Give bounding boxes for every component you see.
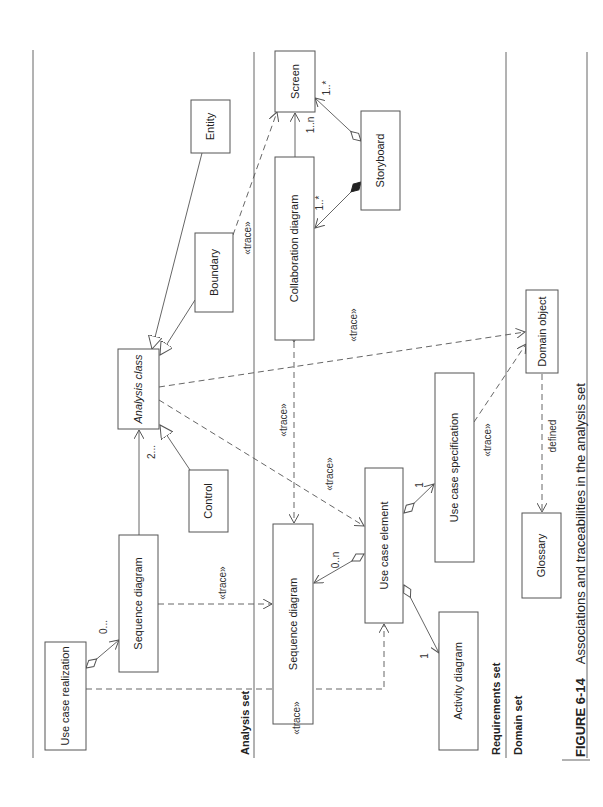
- analysis-class-label: Analysis class: [132, 354, 144, 425]
- collaboration-diagram-label: Collaboration diagram: [288, 195, 300, 303]
- relationship-labels: «trace» «trace» «trace» «trace» «trace» …: [98, 80, 558, 734]
- class-sequence-diagram-analysis[interactable]: Sequence diagram: [119, 535, 158, 672]
- multiplicity-0n: 0..n: [330, 552, 341, 569]
- trace-label-collab-seq: «trace»: [278, 403, 289, 437]
- multiplicity-1-activity: 1: [419, 653, 430, 659]
- defined-label: defined: [547, 420, 558, 453]
- class-use-case-specification[interactable]: Use case specification: [435, 373, 474, 562]
- boundary-screen-trace: [233, 112, 277, 235]
- trace-label-spec-domain: «trace»: [482, 423, 493, 457]
- multiplicity-1-spec: 1: [414, 482, 425, 488]
- ucr-seqdiag-aggregation: [86, 640, 119, 668]
- class-use-case-element[interactable]: Use case element: [365, 468, 403, 623]
- class-use-case-realization[interactable]: Use case realization: [45, 642, 86, 750]
- sequence-diagram-req-label: Sequence diagram: [287, 578, 299, 670]
- domain-object-label: Domain object: [536, 296, 548, 366]
- multiplicity-1n: 1..n: [305, 117, 316, 134]
- multiplicity-0: 0...: [98, 620, 109, 634]
- caption-number: FIGURE 6-14: [573, 677, 588, 757]
- uce-activity-aggregation: [404, 585, 439, 653]
- classes: Entity Boundary Analysis class Control S…: [45, 51, 561, 750]
- figure-caption: FIGURE 6-14 Associations and traceabilit…: [571, 383, 588, 757]
- caption-text: Associations and traceabilities in the a…: [573, 383, 588, 664]
- class-screen[interactable]: Screen: [275, 51, 315, 112]
- multiplicity-1star-collab: 1..*: [314, 195, 325, 210]
- class-sequence-diagram-requirements[interactable]: Sequence diagram: [273, 524, 313, 724]
- trace-label-analysis-uce: «trace»: [324, 457, 335, 491]
- class-analysis-class[interactable]: Analysis class: [118, 349, 159, 429]
- class-collaboration-diagram[interactable]: Collaboration diagram: [275, 157, 314, 340]
- storyboard-screen-aggregation: [315, 98, 361, 141]
- boundary-label: Boundary: [208, 248, 220, 296]
- analysis-set-label: Analysis set: [239, 690, 251, 755]
- use-case-element-label: Use case element: [378, 501, 390, 589]
- class-domain-object[interactable]: Domain object: [526, 290, 558, 373]
- uml-diagram-canvas: Entity Boundary Analysis class Control S…: [0, 0, 603, 807]
- spec-domain-trace: [474, 344, 526, 422]
- multiplicity-2: 2...: [146, 445, 157, 459]
- class-control[interactable]: Control: [189, 470, 228, 532]
- use-case-specification-label: Use case specification: [448, 413, 460, 522]
- trace-label-analysis-domain: «trace»: [348, 308, 359, 342]
- class-entity[interactable]: Entity: [191, 100, 230, 153]
- activity-diagram-label: Activity diagram: [452, 642, 464, 720]
- multiplicity-1star-screen: 1..*: [321, 80, 332, 95]
- class-storyboard[interactable]: Storyboard: [361, 111, 400, 210]
- storyboard-label: Storyboard: [374, 134, 386, 188]
- class-boundary[interactable]: Boundary: [195, 233, 233, 312]
- domain-set-label: Domain set: [512, 695, 524, 755]
- trace-label-ucr-uce: «trace»: [291, 701, 302, 735]
- trace-label-boundary-screen: «trace»: [242, 221, 253, 255]
- trace-label-seq-seq: «trace»: [217, 566, 228, 600]
- screen-label: Screen: [289, 64, 301, 99]
- boundary-generalization: [160, 300, 195, 355]
- control-generalization: [160, 425, 190, 470]
- requirements-set-label: Requirements set: [490, 662, 502, 755]
- entity-label: Entity: [204, 112, 216, 140]
- control-label: Control: [202, 483, 214, 518]
- class-activity-diagram[interactable]: Activity diagram: [439, 612, 478, 750]
- caption: FIGURE 6-14 Associations and traceabilit…: [571, 383, 588, 757]
- class-glossary[interactable]: Glossary: [522, 513, 561, 598]
- use-case-realization-label: Use case realization: [59, 646, 71, 745]
- glossary-label: Glossary: [535, 533, 547, 577]
- sequence-diagram-analysis-label: Sequence diagram: [132, 557, 144, 649]
